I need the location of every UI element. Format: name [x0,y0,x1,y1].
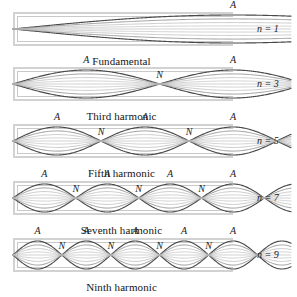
antinode-label: A [167,169,173,179]
mode-label-seventh-harmonic: n = 7 [257,193,279,203]
node-label: N [156,241,163,251]
antinode-label: A [34,226,40,236]
antinode-label: A [230,0,236,10]
caption-ninth-harmonic: Ninth harmonic [0,282,297,293]
mode-label-third-harmonic: n = 3 [257,79,279,89]
antinode-label: A [83,226,89,236]
antinode-label: A [230,55,236,65]
antinode-label: A [54,112,60,122]
wave-curves-seventh-harmonic [13,168,295,228]
node-label: N [198,184,205,194]
antinode-label: A [230,226,236,236]
antinode-label: A [41,169,47,179]
wave-curves-ninth-harmonic [13,225,295,285]
wave-curves-third-harmonic [13,54,295,114]
antinode-label: A [142,112,148,122]
antinode-label: A [181,226,187,236]
node-label: N [135,184,142,194]
antinode-label: A [104,169,110,179]
node-label: N [59,241,66,251]
antinode-label: A [230,169,236,179]
mode-label-ninth-harmonic: n = 9 [257,250,279,260]
mode-label-fundamental: n = 1 [257,24,279,34]
mode-label-fifth-harmonic: n = 5 [257,136,279,146]
antinode-label: A [230,112,236,122]
node-label: N [186,127,193,137]
antinode-label: A [83,55,89,65]
antinode-label: A [132,226,138,236]
node-label: N [98,127,105,137]
node-label: N [156,70,163,80]
node-label: N [205,241,212,251]
wave-curves-fundamental [13,0,295,59]
node-label: N [73,184,80,194]
harmonics-figure: An = 1FundamentalAANn = 3Third harmonicA… [0,0,297,297]
node-label: N [107,241,114,251]
